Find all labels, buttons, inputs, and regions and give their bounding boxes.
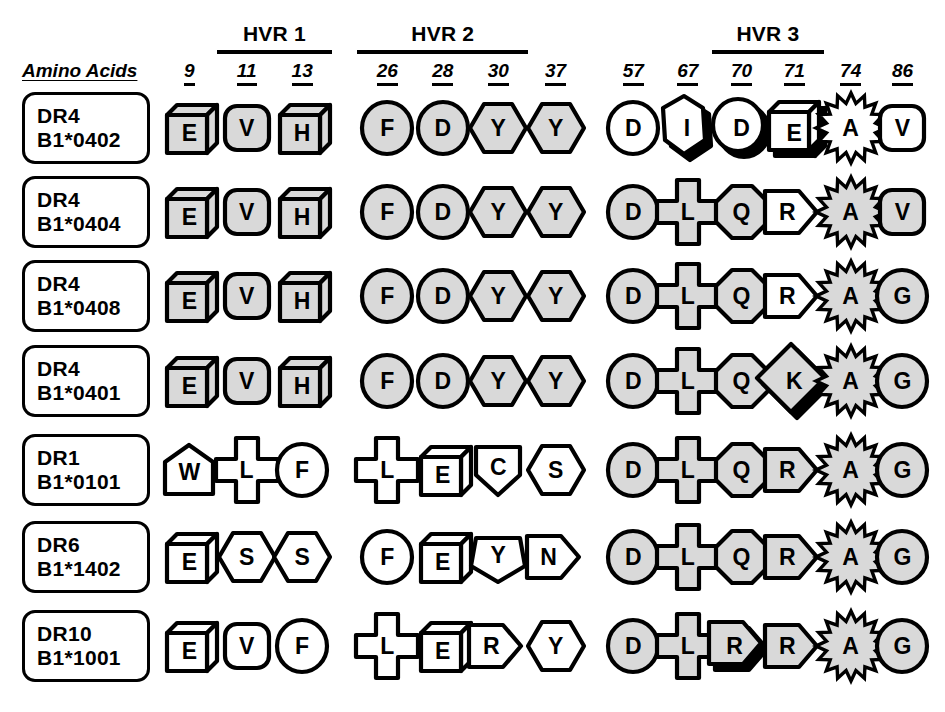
residue-9-e[interactable]: E [157,617,221,679]
position-number-text: 57 [623,60,644,86]
position-number-37: 37 [526,60,586,86]
position-number-28: 28 [413,60,473,86]
allele-serotype: DR1 [37,446,147,470]
residue-86-v[interactable]: V [875,101,929,155]
residue-13-h[interactable]: H [270,99,334,161]
hvr-group-underline-3 [712,50,825,54]
residue-67-i[interactable]: I [663,95,713,161]
allele-label-box[interactable]: DR1B1*0101 [22,434,150,506]
allele-label-box[interactable]: DR4B1*0404 [22,176,150,248]
residue-86-g[interactable]: G [873,441,931,499]
position-number-13: 13 [272,60,332,86]
residue-37-n[interactable]: N [523,531,583,583]
residue-28-e[interactable]: E [411,441,475,503]
residue-30-c[interactable]: C [471,441,525,499]
diagram-canvas: HVR 1HVR 2HVR 3 Amino Acids 911132628303… [0,0,945,712]
position-number-text: 26 [377,60,398,86]
residue-30-y[interactable]: Y [467,99,529,157]
position-number-text: 9 [184,60,195,86]
allele-serotype: DR4 [37,188,147,212]
residue-9-e[interactable]: E [157,267,221,329]
residue-26-f[interactable]: F [358,267,416,325]
position-number-26: 26 [357,60,417,86]
residue-86-g[interactable]: G [873,267,931,325]
residue-30-y[interactable]: Y [467,267,529,325]
residue-70-r[interactable]: R [709,620,769,672]
residue-11-v[interactable]: V [220,101,274,155]
residue-30-y[interactable]: Y [467,183,529,241]
residue-28-d[interactable]: D [414,267,472,325]
residue-9-e[interactable]: E [157,352,221,414]
residue-37-y[interactable]: Y [525,267,587,325]
residue-13-f[interactable]: F [273,617,331,675]
allele-genotype: B1*0101 [37,470,147,494]
allele-label-box[interactable]: DR6B1*1402 [22,521,150,593]
residue-37-y[interactable]: Y [525,99,587,157]
residue-30-y[interactable]: Y [467,352,529,410]
position-number-70: 70 [712,60,772,86]
allele-serotype: DR4 [37,357,147,381]
residue-28-d[interactable]: D [414,352,472,410]
allele-genotype: B1*0408 [37,296,147,320]
residue-11-v[interactable]: V [220,269,274,323]
residue-37-s[interactable]: S [525,441,587,499]
residue-13-f[interactable]: F [273,441,331,499]
allele-serotype: DR10 [37,622,147,646]
residue-37-y[interactable]: Y [525,183,587,241]
allele-label-box[interactable]: DR4B1*0401 [22,345,150,417]
allele-genotype: B1*1402 [37,557,147,581]
allele-label-box[interactable]: DR4B1*0408 [22,260,150,332]
allele-label-box[interactable]: DR10B1*1001 [22,610,150,682]
amino-acids-title: Amino Acids [22,60,137,82]
hvr-group-label-1: HVR 1 [204,22,344,48]
residue-13-s[interactable]: S [271,528,333,586]
residue-86-v[interactable]: V [875,185,929,239]
allele-genotype: B1*0404 [37,212,147,236]
position-number-57: 57 [603,60,663,86]
residue-28-d[interactable]: D [414,183,472,241]
residue-28-e[interactable]: E [411,528,475,590]
residue-57-d[interactable]: D [604,99,662,157]
residue-13-h[interactable]: H [270,267,334,329]
hvr-group-underline-1 [217,50,333,54]
residue-86-g[interactable]: G [873,352,931,410]
residue-13-h[interactable]: H [270,183,334,245]
residue-26-f[interactable]: F [358,352,416,410]
residue-28-d[interactable]: D [414,99,472,157]
residue-11-v[interactable]: V [220,619,274,673]
residue-11-s[interactable]: S [216,528,278,586]
residue-26-f[interactable]: F [358,183,416,241]
position-number-text: 37 [545,60,566,86]
residue-26-f[interactable]: F [358,99,416,157]
residue-30-y[interactable]: Y [469,528,527,586]
position-number-text: 67 [677,60,698,86]
residue-9-e[interactable]: E [157,183,221,245]
residue-30-r[interactable]: R [465,620,525,672]
allele-serotype: DR4 [37,104,147,128]
position-number-text: 71 [784,60,805,86]
position-number-text: 86 [892,60,913,86]
allele-genotype: B1*0401 [37,381,147,405]
hvr-group-label-2: HVR 2 [373,22,513,48]
residue-11-v[interactable]: V [220,354,274,408]
residue-86-g[interactable]: G [873,617,931,675]
residue-9-w[interactable]: W [161,442,217,498]
position-number-text: 28 [432,60,453,86]
allele-genotype: B1*1001 [37,646,147,670]
allele-genotype: B1*0402 [37,128,147,152]
residue-26-f[interactable]: F [358,528,416,586]
position-number-text: 70 [731,60,752,86]
residue-11-v[interactable]: V [220,185,274,239]
position-number-9: 9 [159,60,219,86]
allele-label-box[interactable]: DR4B1*0402 [22,92,150,164]
residue-13-h[interactable]: H [270,352,334,414]
residue-86-g[interactable]: G [873,528,931,586]
residue-37-y[interactable]: Y [525,352,587,410]
position-number-text: 11 [237,60,257,86]
residue-9-e[interactable]: E [157,99,221,161]
residue-11-l[interactable]: L [212,434,282,506]
residue-37-y[interactable]: Y [525,617,587,675]
position-number-67: 67 [658,60,718,86]
position-number-30: 30 [468,60,528,86]
residue-9-e[interactable]: E [157,528,221,590]
